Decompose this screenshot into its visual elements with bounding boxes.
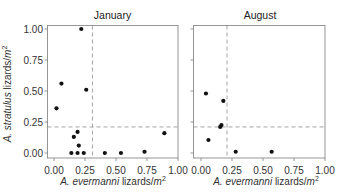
reference-lines-january: [48, 26, 179, 159]
x-tick-label: 1.00: [168, 165, 188, 176]
data-point: [103, 151, 107, 155]
x-tick-label: 0.50: [106, 165, 126, 176]
x-label-unit-var: m: [307, 176, 315, 187]
x-tick-label: 0.50: [253, 165, 273, 176]
x-tick-label: 0.75: [284, 165, 304, 176]
y-tick-label: 0.75: [24, 55, 44, 66]
x-tick-label: 0.25: [222, 165, 242, 176]
x-tick-label: 0.00: [191, 165, 211, 176]
data-point: [59, 81, 63, 85]
y-axis-label: A. stratulus lizards/m2: [1, 46, 13, 144]
data-point: [219, 123, 223, 127]
reference-lines-august: [194, 26, 326, 159]
panel-title-january: January: [94, 9, 132, 21]
y-label-unit-exp: 2: [1, 46, 8, 50]
x-label-unit-exp: 2: [315, 175, 319, 182]
panel-august: August 0.000.250.500.751.00 A. evermanni…: [191, 9, 336, 187]
data-point: [221, 99, 225, 103]
x-tick-label: 0.75: [137, 165, 157, 176]
x-label-unit: lizards/: [119, 176, 154, 187]
x-label-species: A. evermanni: [59, 176, 120, 187]
data-point: [69, 151, 73, 155]
data-point: [234, 150, 238, 154]
scatter-figure: January 0.000.250.500.751.000.000.250.50…: [0, 0, 344, 196]
data-point: [75, 151, 79, 155]
x-label-unit: lizards/: [272, 176, 307, 187]
data-points-january: [54, 27, 166, 155]
plot-frame-january: [48, 26, 179, 159]
y-tick-label: 0.25: [24, 117, 44, 128]
data-point: [270, 150, 274, 154]
x-tick-label: 0.00: [44, 165, 64, 176]
data-points-august: [204, 91, 274, 153]
data-point: [119, 151, 123, 155]
plot-frame-august: [194, 26, 326, 159]
data-point: [142, 150, 146, 154]
data-point: [72, 135, 76, 139]
data-point: [84, 88, 88, 92]
y-label-species: A. stratulus: [2, 92, 13, 143]
data-point: [82, 151, 86, 155]
y-label-unit: lizards/: [2, 58, 13, 93]
y-tick-label: 0.50: [24, 86, 44, 97]
y-tick-label: 0.00: [24, 148, 44, 159]
data-point: [75, 130, 79, 134]
panel-title-august: August: [244, 9, 277, 21]
panel-january: January 0.000.250.500.751.000.000.250.50…: [24, 9, 189, 187]
x-label-unit-exp: 2: [162, 175, 166, 182]
data-point: [204, 91, 208, 95]
y-tick-label: 1.00: [24, 24, 44, 35]
x-axis-label-august: A. evermanni lizards/m2: [212, 175, 319, 187]
y-label-unit-var: m: [2, 50, 13, 58]
data-point: [206, 138, 210, 142]
data-point: [77, 143, 81, 147]
data-point: [54, 106, 58, 110]
data-point: [79, 27, 83, 31]
data-point: [162, 131, 166, 135]
x-axis-label-january: A. evermanni lizards/m2: [59, 175, 166, 187]
x-label-species: A. evermanni: [212, 176, 273, 187]
x-label-unit-var: m: [154, 176, 162, 187]
x-tick-label: 0.25: [75, 165, 95, 176]
axis-ticks-august: 0.000.250.500.751.00: [191, 29, 336, 176]
